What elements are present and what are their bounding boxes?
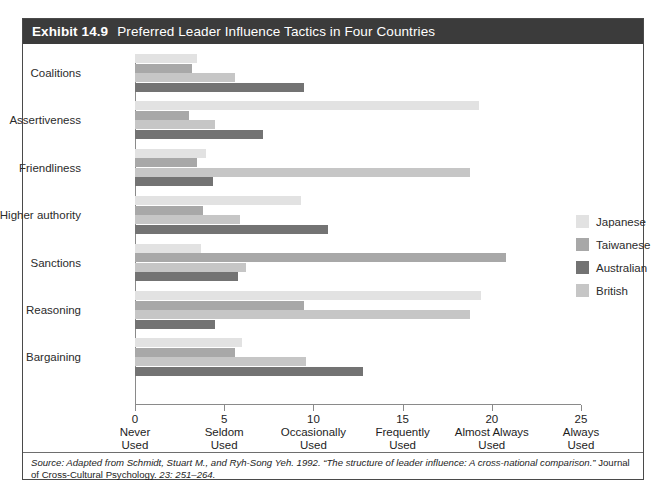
x-tick-5: [224, 405, 225, 411]
bar-australian-coalitions: [135, 83, 304, 92]
legend-item-japanese: Japanese: [576, 212, 650, 231]
source-divider: [23, 452, 643, 453]
bar-taiwanese-bargaining: [135, 348, 235, 357]
legend-label: Taiwanese: [596, 239, 650, 251]
x-tick-value: 25: [526, 413, 636, 426]
bar-japanese-reasoning: [135, 291, 481, 300]
x-tick-25: [581, 405, 582, 411]
exhibit-figure: Exhibit 14.9 Preferred Leader Influence …: [0, 0, 665, 496]
bar-japanese-higher-authority: [135, 196, 301, 205]
bar-taiwanese-higher-authority: [135, 206, 203, 215]
bar-group: [23, 54, 643, 92]
bar-british-assertiveness: [135, 120, 215, 129]
legend-item-australian: Australian: [576, 258, 650, 277]
exhibit-title-bar: Exhibit 14.9 Preferred Leader Influence …: [23, 19, 643, 44]
bar-taiwanese-sanctions: [135, 253, 506, 262]
category-label-reasoning: Reasoning: [0, 304, 81, 316]
category-label-bargaining: Bargaining: [0, 351, 81, 363]
bar-group: [23, 196, 643, 234]
legend-swatch-icon: [576, 238, 589, 251]
legend-label: Japanese: [596, 216, 646, 228]
bar-group: [23, 338, 643, 376]
x-tick-word-1: Always: [526, 426, 636, 439]
legend-swatch-icon: [576, 215, 589, 228]
bar-british-bargaining: [135, 357, 306, 366]
bar-australian-sanctions: [135, 272, 238, 281]
bar-australian-friendliness: [135, 177, 213, 186]
x-tick-label-25: 25AlwaysUsed: [526, 413, 636, 452]
chart-legend: JapaneseTaiwaneseAustralianBritish: [576, 212, 650, 304]
bar-australian-assertiveness: [135, 130, 263, 139]
x-tick-20: [492, 405, 493, 411]
bar-taiwanese-reasoning: [135, 301, 304, 310]
bar-japanese-assertiveness: [135, 101, 479, 110]
legend-swatch-icon: [576, 284, 589, 297]
legend-item-british: British: [576, 281, 650, 300]
bar-group: [23, 291, 643, 329]
bar-taiwanese-coalitions: [135, 64, 192, 73]
category-label-coalitions: Coalitions: [0, 67, 81, 79]
exhibit-frame: Exhibit 14.9 Preferred Leader Influence …: [22, 18, 644, 480]
bar-japanese-coalitions: [135, 54, 197, 63]
bar-japanese-bargaining: [135, 338, 242, 347]
bar-japanese-sanctions: [135, 244, 201, 253]
legend-label: Australian: [596, 262, 647, 274]
chart-area: CoalitionsAssertivenessFriendlinessHighe…: [23, 44, 643, 452]
x-tick-15: [403, 405, 404, 411]
x-tick-0: [135, 405, 136, 411]
bar-british-reasoning: [135, 310, 470, 319]
x-tick-word-2: Used: [526, 439, 636, 452]
x-tick-10: [313, 405, 314, 411]
bar-british-friendliness: [135, 168, 470, 177]
category-label-higher-authority: Higher authority: [0, 209, 81, 221]
x-axis-line: [135, 404, 581, 405]
bar-australian-higher-authority: [135, 225, 328, 234]
exhibit-number: Exhibit 14.9: [32, 24, 108, 39]
bar-british-higher-authority: [135, 215, 240, 224]
bar-group: [23, 149, 643, 187]
bar-group: [23, 244, 643, 282]
bar-british-sanctions: [135, 263, 246, 272]
bar-japanese-friendliness: [135, 149, 206, 158]
category-label-friendliness: Friendliness: [0, 162, 81, 174]
source-text-lead: Source: Adapted from Schmidt, Stuart M.,…: [31, 457, 598, 468]
legend-swatch-icon: [576, 261, 589, 274]
bar-australian-bargaining: [135, 367, 363, 376]
legend-item-taiwanese: Taiwanese: [576, 235, 650, 254]
bar-australian-reasoning: [135, 320, 215, 329]
category-label-assertiveness: Assertiveness: [0, 114, 81, 126]
bar-british-coalitions: [135, 73, 235, 82]
category-label-sanctions: Sanctions: [0, 257, 81, 269]
exhibit-title: Preferred Leader Influence Tactics in Fo…: [117, 24, 435, 39]
source-note: Source: Adapted from Schmidt, Stuart M.,…: [31, 457, 637, 482]
legend-label: British: [596, 285, 628, 297]
bar-taiwanese-friendliness: [135, 158, 197, 167]
bar-taiwanese-assertiveness: [135, 111, 189, 120]
source-pages: 23: 251–264.: [157, 469, 216, 480]
bar-group: [23, 101, 643, 139]
